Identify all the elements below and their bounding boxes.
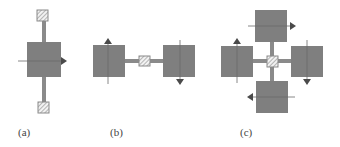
- arrow-right-icon: [61, 57, 67, 65]
- proof-mass: [27, 42, 61, 77]
- arrow-down-icon: [176, 79, 184, 85]
- arrow-right-icon: [290, 22, 296, 30]
- arrow-down-icon: [303, 79, 311, 85]
- panel-label-a: (a): [18, 126, 30, 138]
- anchor-center: [139, 56, 150, 66]
- proof-mass-left: [93, 45, 125, 77]
- arrow-left-icon: [247, 93, 253, 101]
- panel-a: [18, 10, 67, 113]
- figure-canvas: [0, 0, 340, 147]
- panel-label-b: (b): [110, 126, 123, 138]
- anchor-bottom: [38, 102, 49, 113]
- anchor-center: [267, 56, 278, 67]
- panel-c: [221, 10, 323, 113]
- arrow-up-icon: [104, 38, 112, 44]
- beam-bottom: [42, 77, 46, 102]
- panel-label-c: (c): [240, 126, 252, 138]
- proof-mass-right: [163, 45, 195, 77]
- panel-b: [93, 38, 195, 85]
- beam-top: [42, 20, 46, 42]
- arrow-up-icon: [233, 38, 241, 44]
- anchor-top: [37, 10, 48, 21]
